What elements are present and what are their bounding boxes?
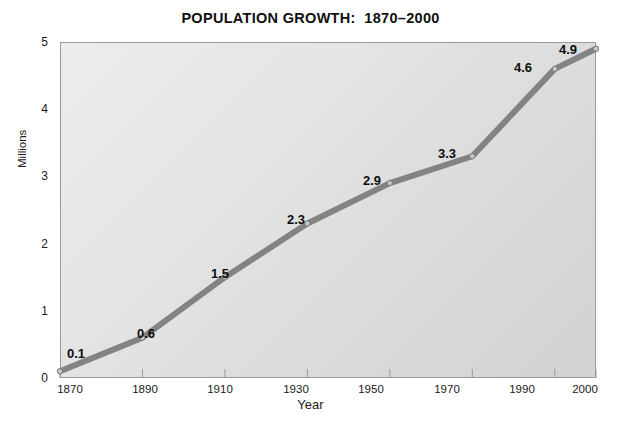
y-tick-label-0: 0 xyxy=(4,372,48,384)
point-label-3: 2.3 xyxy=(287,213,305,226)
chart-title: POPULATION GROWTH: 1870–2000 xyxy=(0,10,621,26)
data-point-1970 xyxy=(470,154,475,159)
point-label-5: 3.3 xyxy=(438,147,456,160)
point-label-6: 4.6 xyxy=(514,61,532,74)
x-axis-title: Year xyxy=(0,397,621,412)
x-tick-label-1990: 1990 xyxy=(509,383,535,395)
data-point-1950 xyxy=(387,181,392,186)
y-axis-title: Millions xyxy=(16,130,28,168)
point-label-0: 0.1 xyxy=(67,347,85,360)
data-point-markers xyxy=(57,46,598,374)
x-tick-label-1890: 1890 xyxy=(132,383,158,395)
data-point-1870 xyxy=(57,369,62,374)
x-tick-label-1930: 1930 xyxy=(283,383,309,395)
y-tick-label-2: 2 xyxy=(4,238,48,250)
x-tick-label-2000: 2000 xyxy=(572,383,598,395)
series-polyline xyxy=(60,49,596,372)
y-tick-label-3: 3 xyxy=(4,170,48,182)
x-tick-label-1970: 1970 xyxy=(434,383,460,395)
point-label-7: 4.9 xyxy=(559,43,577,56)
data-point-2000 xyxy=(593,46,598,51)
x-tick-label-1910: 1910 xyxy=(207,383,233,395)
point-label-2: 1.5 xyxy=(211,267,229,280)
data-point-1990 xyxy=(552,66,557,71)
x-axis-tick-marks xyxy=(60,369,596,378)
x-tick-label-1870: 1870 xyxy=(57,383,83,395)
y-tick-label-5: 5 xyxy=(4,36,48,48)
data-point-1930 xyxy=(305,221,310,226)
point-label-1: 0.6 xyxy=(137,327,155,340)
y-tick-label-4: 4 xyxy=(4,103,48,115)
x-tick-label-1950: 1950 xyxy=(358,383,384,395)
population-growth-chart: POPULATION GROWTH: 1870–2000 Millions Ye… xyxy=(0,0,621,434)
point-label-4: 2.9 xyxy=(363,174,381,187)
y-tick-label-1: 1 xyxy=(4,305,48,317)
